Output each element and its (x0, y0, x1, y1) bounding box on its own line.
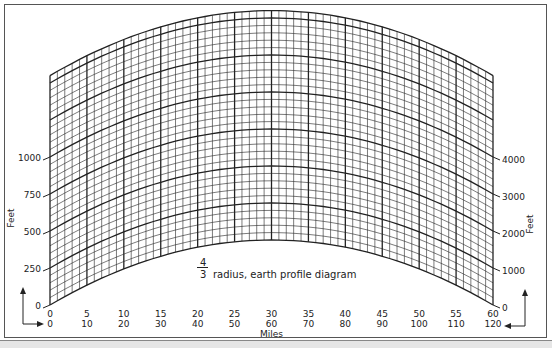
left-axis-tick: 500 (24, 227, 41, 237)
x-tick-miles: 25 (229, 309, 240, 319)
right-axis-label: Feet (525, 214, 535, 234)
title-text: radius, earth profile diagram (213, 269, 356, 280)
right-axis-tick: 2000 (502, 229, 525, 239)
x-tick-km: 10 (81, 319, 93, 329)
x-tick-miles: 20 (192, 309, 204, 319)
fraction-denominator: 3 (200, 269, 206, 280)
x-tick-miles: 55 (450, 309, 461, 319)
x-tick-km: 110 (447, 319, 464, 329)
x-tick-miles: 5 (84, 309, 90, 319)
right-axis-tick: 0 (502, 303, 508, 313)
x-axis-label: Miles (260, 329, 283, 339)
x-tick-km: 90 (377, 319, 389, 329)
right-axis-tick: 3000 (502, 192, 525, 202)
left-axis-label: Feet (6, 208, 16, 228)
x-tick-km: 80 (340, 319, 352, 329)
x-tick-miles: 40 (340, 309, 352, 319)
x-tick-miles: 60 (487, 309, 499, 319)
x-tick-km: 0 (47, 319, 53, 329)
right-axis-tick: 4000 (502, 155, 525, 165)
x-tick-km: 50 (229, 319, 241, 329)
x-tick-miles: 45 (377, 309, 388, 319)
x-tick-km: 120 (484, 319, 501, 329)
x-tick-miles: 10 (118, 309, 130, 319)
x-tick-miles: 15 (155, 309, 166, 319)
left-axis-tick: 0 (35, 301, 41, 311)
left-axis-tick: 750 (24, 190, 41, 200)
x-tick-km: 40 (192, 319, 204, 329)
left-axis-tick: 250 (24, 264, 41, 274)
right-axis-tick: 1000 (502, 266, 525, 276)
x-tick-miles: 0 (47, 309, 53, 319)
x-tick-km: 30 (155, 319, 167, 329)
x-tick-miles: 30 (266, 309, 278, 319)
x-tick-km: 60 (266, 319, 278, 329)
x-tick-miles: 35 (303, 309, 314, 319)
x-tick-miles: 50 (413, 309, 425, 319)
fraction-bar (197, 267, 208, 268)
left-axis-tick: 1000 (18, 153, 41, 163)
x-tick-km: 100 (411, 319, 428, 329)
x-tick-km: 20 (118, 319, 130, 329)
x-tick-km: 70 (303, 319, 315, 329)
